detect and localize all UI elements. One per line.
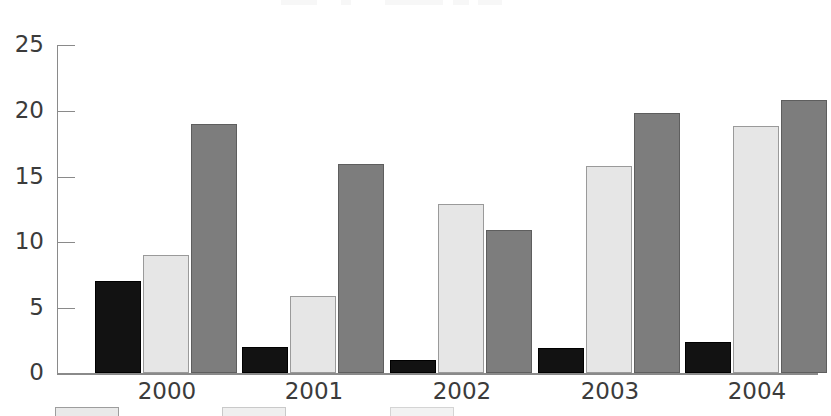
y-axis-line: [57, 45, 58, 374]
bar-2001-series-1[interactable]: [242, 347, 288, 373]
y-tick-label-15: 15: [0, 165, 44, 188]
top-legend-ghost-3: [385, 0, 443, 5]
legend-swatch-icon-0: [55, 407, 119, 416]
bar-2003-series-1[interactable]: [538, 348, 584, 373]
y-tick-10: [57, 242, 75, 243]
y-tick-25: [57, 45, 75, 46]
y-tick-15: [57, 177, 75, 178]
x-axis-label-2002: 2002: [378, 380, 546, 403]
bar-2002-series-3[interactable]: [486, 230, 532, 373]
bar-group-2003: [538, 45, 682, 373]
bar-2003-series-3[interactable]: [634, 113, 680, 373]
bar-2002-series-2[interactable]: [438, 204, 484, 373]
top-legend-ghost-2: [341, 0, 351, 5]
legend-swatch-icon-2: [390, 407, 454, 416]
y-tick-label-0: 0: [0, 361, 44, 384]
bar-group-2004: [685, 45, 829, 373]
bar-2002-series-1[interactable]: [390, 360, 436, 373]
x-axis-label-2004: 2004: [673, 380, 831, 403]
bar-group-2000: [95, 45, 239, 373]
x-axis-line: [57, 373, 818, 375]
top-legend-ghost-5: [478, 0, 502, 5]
legend: [0, 407, 821, 416]
bar-2000-series-3[interactable]: [191, 124, 237, 373]
bar-group-2002: [390, 45, 534, 373]
y-tick-5: [57, 308, 75, 309]
bar-group-2001: [242, 45, 386, 373]
y-tick-label-25: 25: [0, 33, 44, 56]
y-tick-label-20: 20: [0, 99, 44, 122]
bar-2004-series-1[interactable]: [685, 342, 731, 373]
y-tick-label-5: 5: [0, 296, 44, 319]
bar-2004-series-3[interactable]: [781, 100, 827, 373]
y-tick-20: [57, 111, 75, 112]
bar-2003-series-2[interactable]: [586, 166, 632, 373]
y-tick-label-10: 10: [0, 230, 44, 253]
top-legend-ghost-1: [281, 0, 317, 5]
x-axis-label-2001: 2001: [230, 380, 398, 403]
bar-2001-series-3[interactable]: [338, 164, 384, 373]
top-clipped-legend-strip: [0, 0, 821, 6]
bar-2000-series-1[interactable]: [95, 281, 141, 373]
top-legend-ghost-4: [453, 0, 469, 5]
bar-2000-series-2[interactable]: [143, 255, 189, 373]
bar-2001-series-2[interactable]: [290, 296, 336, 373]
legend-swatch-icon-1: [222, 407, 286, 416]
x-axis-label-2003: 2003: [526, 380, 694, 403]
x-axis-label-2000: 2000: [83, 380, 251, 403]
bar-2004-series-2[interactable]: [733, 126, 779, 373]
